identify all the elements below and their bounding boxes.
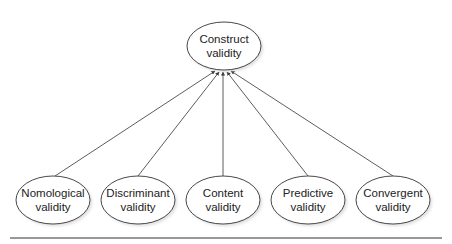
edge-nomological-to-construct: [55, 71, 215, 176]
node-label-line2: validity: [375, 201, 410, 213]
edge-convergent-to-construct: [231, 71, 393, 176]
node-nomological-validity: Nomological validity: [16, 176, 92, 226]
node-content-validity: Content validity: [186, 176, 262, 226]
node-label-line1: Convergent: [363, 187, 423, 199]
node-label-line2: validity: [205, 201, 240, 213]
node-label-line2: validity: [206, 47, 241, 59]
edge-predictive-to-construct: [227, 72, 308, 176]
node-label-line2: validity: [290, 201, 325, 213]
edges: [55, 71, 393, 176]
node-predictive-validity: Predictive validity: [271, 176, 347, 226]
node-label-line2: validity: [120, 201, 155, 213]
node-label-line1: Discriminant: [106, 187, 170, 199]
node-convergent-validity: Convergent validity: [356, 176, 432, 226]
node-discriminant-validity: Discriminant validity: [101, 176, 177, 226]
node-label-line1: Nomological: [21, 187, 84, 199]
node-label-line1: Predictive: [283, 187, 334, 199]
node-label-line2: validity: [35, 201, 70, 213]
validity-diagram: Construct validity Nomological validity …: [0, 0, 452, 244]
edge-discriminant-to-construct: [138, 72, 219, 176]
node-construct-validity: Construct validity: [187, 22, 263, 72]
node-label-line1: Construct: [199, 33, 249, 45]
node-label-line1: Content: [203, 187, 244, 199]
